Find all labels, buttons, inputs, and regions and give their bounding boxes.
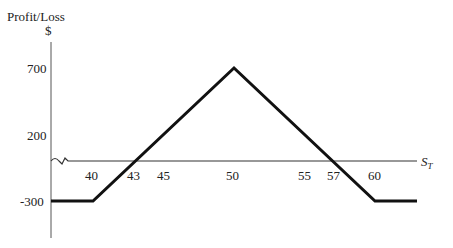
y-tick-700: 700 <box>27 61 47 76</box>
x-tick-43: 43 <box>127 168 140 183</box>
x-tick-45: 45 <box>157 168 170 183</box>
x-tick-55: 55 <box>298 168 311 183</box>
y-tick-neg300: -300 <box>20 194 44 209</box>
y-tick-200: 200 <box>27 128 47 143</box>
y-label-line1: Profit/Loss <box>7 9 65 24</box>
payoff-chart: Profit/Loss $ 700 200 -300 40 43 45 50 5… <box>0 0 453 248</box>
x-tick-40: 40 <box>85 168 98 183</box>
y-label-line2: $ <box>45 23 52 38</box>
x-tick-60: 60 <box>368 168 381 183</box>
x-axis <box>51 158 417 164</box>
x-label: ST <box>421 154 434 171</box>
x-tick-50: 50 <box>226 168 239 183</box>
x-tick-57: 57 <box>327 168 341 183</box>
